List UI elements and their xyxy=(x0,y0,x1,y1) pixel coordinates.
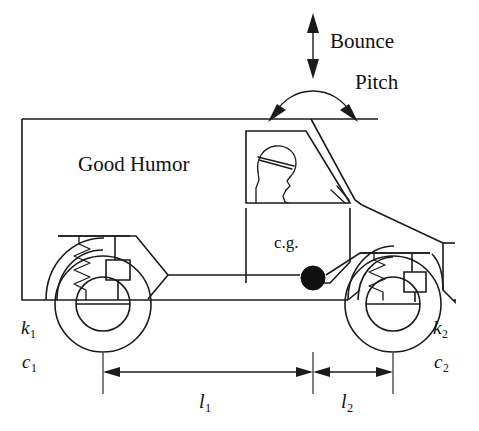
rear-length-symbol: l xyxy=(199,390,205,412)
dimension-lines xyxy=(103,352,393,394)
rear-suspension-assembly xyxy=(58,236,130,300)
rear-length-label: l1 xyxy=(199,391,211,411)
pitch-arc-arrow xyxy=(268,91,358,122)
front-spring-subscript: 2 xyxy=(442,328,448,341)
front-length-subscript: 2 xyxy=(347,401,353,415)
front-damper-symbol: c xyxy=(434,351,442,372)
center-of-gravity-marker xyxy=(301,266,325,290)
center-of-gravity-label: c.g. xyxy=(274,234,299,251)
rear-damper-label: c1 xyxy=(22,352,36,371)
rear-wheel xyxy=(46,238,151,352)
pitch-label: Pitch xyxy=(355,72,398,93)
driver-figure-icon xyxy=(256,146,296,203)
bounce-label: Bounce xyxy=(330,31,394,52)
front-spring-symbol: k xyxy=(433,317,441,338)
truck-brand-label: Good Humor xyxy=(78,154,189,175)
vehicle-vibration-diagram: Bounce Pitch Good Humor c.g. k1 c1 k2 c2… xyxy=(0,0,479,431)
cab-windshield xyxy=(246,131,350,203)
rear-damper-subscript: 1 xyxy=(31,362,37,375)
front-damper-subscript: 2 xyxy=(443,362,449,375)
rear-spring-subscript: 1 xyxy=(30,328,36,341)
front-wheel xyxy=(345,246,443,352)
front-damper-label: c2 xyxy=(434,352,448,371)
rear-length-subscript: 1 xyxy=(205,401,211,415)
front-length-symbol: l xyxy=(341,390,347,412)
rear-spring-label: k1 xyxy=(21,318,35,337)
diagram-canvas xyxy=(0,0,479,431)
front-spring-label: k2 xyxy=(433,318,447,337)
bounce-arrow xyxy=(307,13,319,79)
chassis-frame xyxy=(46,236,430,300)
rear-spring-symbol: k xyxy=(21,317,29,338)
front-length-label: l2 xyxy=(341,391,353,411)
rear-damper-symbol: c xyxy=(22,351,30,372)
